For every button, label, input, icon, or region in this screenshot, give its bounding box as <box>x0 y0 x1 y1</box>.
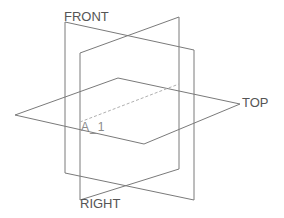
axis-a1-text: A_1 <box>81 120 105 134</box>
front-plane-label[interactable]: FRONT <box>64 10 109 23</box>
top-plane[interactable] <box>15 78 240 144</box>
right-plane[interactable] <box>80 17 179 200</box>
axis-a1-label[interactable]: A_1 <box>81 121 105 133</box>
axis-a1[interactable] <box>80 84 179 122</box>
front-plane[interactable] <box>65 22 194 200</box>
top-plane-label[interactable]: TOP <box>242 96 269 109</box>
right-plane-label[interactable]: RIGHT <box>80 197 120 210</box>
